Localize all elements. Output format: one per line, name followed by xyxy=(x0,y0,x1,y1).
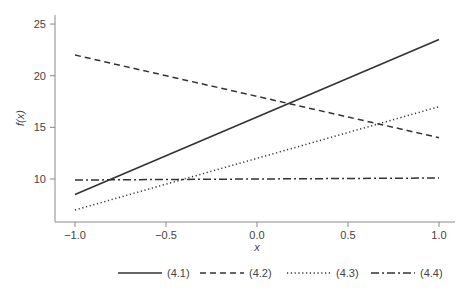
y-tick-label: 15 xyxy=(34,121,46,133)
line-chart: 10152025 −1.0−0.50.00.51.0 f(x) x (4.1)(… xyxy=(0,0,474,295)
legend: (4.1)(4.2)(4.3)(4.4) xyxy=(118,267,443,279)
legend-label: (4.2) xyxy=(249,267,272,279)
x-tick-label: 1.0 xyxy=(431,229,446,241)
y-tick-label: 25 xyxy=(34,18,46,30)
series-lines xyxy=(75,40,439,210)
x-tick-label: −0.5 xyxy=(155,229,177,241)
series-line-4 xyxy=(75,178,439,180)
x-axis-label: x xyxy=(253,241,260,253)
legend-label: (4.4) xyxy=(420,267,443,279)
series-line-2 xyxy=(75,55,439,138)
legend-label: (4.3) xyxy=(336,267,359,279)
y-tick-label: 20 xyxy=(34,70,46,82)
x-tick-label: −1.0 xyxy=(64,229,86,241)
legend-label: (4.1) xyxy=(167,267,190,279)
series-line-1 xyxy=(75,40,439,195)
series-line-3 xyxy=(75,107,439,210)
y-tick-label: 10 xyxy=(34,173,46,185)
x-tick-label: 0.0 xyxy=(249,229,264,241)
y-axis-label: f(x) xyxy=(14,110,26,126)
x-ticks: −1.0−0.50.00.51.0 xyxy=(64,222,447,241)
y-ticks: 10152025 xyxy=(34,18,55,185)
x-tick-label: 0.5 xyxy=(340,229,355,241)
